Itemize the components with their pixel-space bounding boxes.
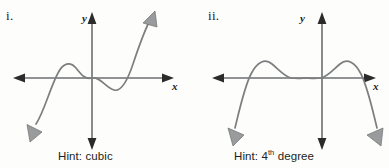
x-axis-left-arrowhead-i	[13, 74, 25, 83]
y-axis-label-ii: y	[300, 12, 305, 24]
quartic-curve-ii	[235, 61, 377, 128]
cubic-lower-left-arrowhead-i	[27, 125, 42, 143]
hint-prefix-i: Hint: cubic	[58, 150, 113, 162]
cubic-upper-right-arrowhead-i	[143, 11, 157, 27]
y-axis-bottom-arrowhead-ii	[318, 138, 327, 150]
hint-text-i: Hint: cubic	[58, 150, 113, 162]
y-axis-top-arrowhead-i	[88, 12, 97, 24]
x-axis-label-i: x	[172, 80, 178, 92]
quartic-lower-left-arrowhead-ii	[228, 128, 244, 146]
x-axis-label-ii: x	[373, 80, 379, 92]
y-axis-top-arrowhead-ii	[318, 12, 327, 24]
y-axis-label-i: y	[82, 12, 87, 24]
graph-panel-i: i. y x Hint: cubic	[0, 0, 194, 168]
graph-i-svg	[0, 0, 194, 168]
x-axis-left-arrowhead-ii	[212, 74, 224, 83]
cubic-curve-i	[36, 20, 150, 124]
panel-label-i: i.	[6, 8, 13, 24]
hint-prefix-ii: Hint: 4	[234, 150, 268, 162]
graph-panel-ii: ii. y x Hint: 4th degree	[195, 0, 389, 168]
y-axis-bottom-arrowhead-i	[88, 138, 97, 150]
polynomial-graphs-figure: i. y x Hint: cubic ii.	[0, 0, 389, 168]
panel-label-ii: ii.	[208, 8, 219, 24]
hint-suffix-ii: degree	[274, 150, 314, 162]
graph-ii-svg	[195, 0, 389, 168]
quartic-lower-right-arrowhead-ii	[367, 128, 383, 146]
hint-text-ii: Hint: 4th degree	[234, 150, 314, 162]
